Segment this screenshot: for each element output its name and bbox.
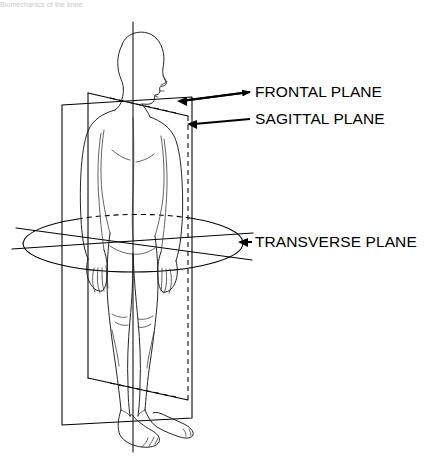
label-sagittal-plane: SAGITTAL PLANE [255, 110, 385, 127]
human-figure [80, 32, 193, 447]
frontal-plane [62, 97, 192, 425]
label-transverse-plane: TRANSVERSE PLANE [255, 233, 417, 250]
transverse-plane-leader [238, 238, 252, 247]
page-caption: Biomechanics of the knee [0, 0, 200, 7]
frontal-plane-leader [177, 92, 250, 106]
sagittal-plane-leader [187, 119, 250, 129]
anatomical-planes-figure: Biomechanics of the knee [0, 0, 430, 461]
label-frontal-plane: FRONTAL PLANE [255, 83, 382, 100]
planes-diagram-svg: FRONTAL PLANE SAGITTAL PLANE TRANSVERSE … [0, 0, 430, 461]
